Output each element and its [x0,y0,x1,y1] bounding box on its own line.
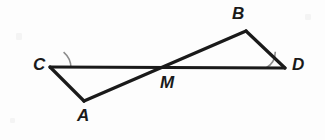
segment-CA [50,67,84,101]
vertex-label-M: M [160,74,174,91]
segment-CD [50,67,285,68]
geometry-canvas [0,0,325,140]
scan-artifact [16,33,22,40]
vertex-label-B: B [232,5,244,22]
vertex-label-C: C [33,56,45,73]
segment-BD [246,31,285,68]
geometry-figure: C A M B D [0,0,325,140]
scan-artifact [305,14,311,20]
vertex-label-D: D [292,56,304,73]
scan-artifact [10,118,15,123]
vertex-label-A: A [77,107,89,124]
